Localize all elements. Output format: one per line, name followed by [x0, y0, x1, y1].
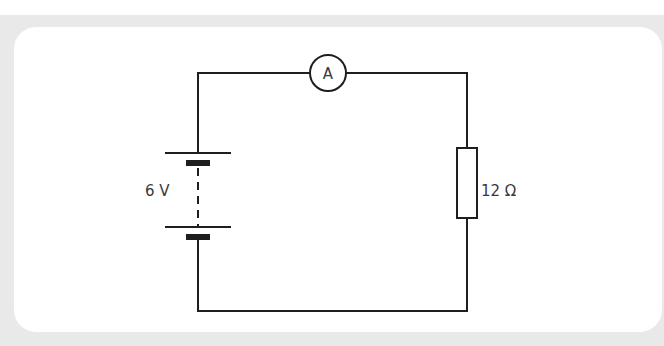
ammeter-symbol: A: [310, 55, 346, 91]
wire-top-left: [198, 73, 310, 153]
circuit-diagram: 6 V A 12 Ω: [0, 0, 664, 346]
ammeter-label: A: [323, 65, 334, 83]
wire-top-right: [346, 73, 467, 148]
circuit-wires: [198, 73, 467, 311]
resistor-symbol: 12 Ω: [457, 148, 516, 218]
wire-bottom: [198, 218, 467, 311]
resistor-box: [457, 148, 477, 218]
battery-negative-plate-lower: [186, 234, 210, 240]
battery-label: 6 V: [145, 182, 170, 200]
resistor-label: 12 Ω: [481, 182, 516, 200]
battery-symbol: 6 V: [145, 153, 231, 240]
battery-negative-plate-upper: [186, 160, 210, 166]
